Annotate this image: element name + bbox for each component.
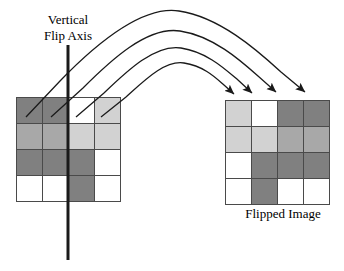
original-cell-r1c3 bbox=[69, 98, 94, 123]
original-cell-r2c4 bbox=[95, 124, 120, 149]
flipped-cell-r4c1 bbox=[226, 179, 251, 204]
flipped-cell-r2c4 bbox=[304, 127, 329, 152]
flipped-cell-r4c2 bbox=[252, 179, 277, 204]
original-cell-r1c4 bbox=[95, 98, 120, 123]
original-cell-r4c2 bbox=[43, 176, 68, 201]
flipped-cell-r1c3 bbox=[278, 101, 303, 126]
flipped-cell-r3c1 bbox=[226, 153, 251, 178]
flipped-cell-r1c4 bbox=[304, 101, 329, 126]
original-image-grid bbox=[16, 97, 121, 202]
axis-label-line-1: Vertical bbox=[16, 12, 120, 28]
vertical-flip-axis-label: Vertical Flip Axis bbox=[16, 12, 120, 44]
flipped-cell-r2c1 bbox=[226, 127, 251, 152]
flipped-cell-r1c2 bbox=[252, 101, 277, 126]
flipped-cell-r3c4 bbox=[304, 153, 329, 178]
flipped-cell-r2c2 bbox=[252, 127, 277, 152]
original-cell-r1c2 bbox=[43, 98, 68, 123]
original-cell-r4c3 bbox=[69, 176, 94, 201]
original-cell-r4c4 bbox=[95, 176, 120, 201]
flipped-cell-r3c3 bbox=[278, 153, 303, 178]
axis-label-line-2: Flip Axis bbox=[16, 28, 120, 44]
flipped-cell-r4c4 bbox=[304, 179, 329, 204]
original-cell-r2c2 bbox=[43, 124, 68, 149]
original-cell-r2c1 bbox=[17, 124, 42, 149]
flipped-image-grid bbox=[225, 100, 330, 205]
flipped-cell-r2c3 bbox=[278, 127, 303, 152]
flipped-cell-r3c2 bbox=[252, 153, 277, 178]
flipped-cell-r1c1 bbox=[226, 101, 251, 126]
original-cell-r1c1 bbox=[17, 98, 42, 123]
original-cell-r2c3 bbox=[69, 124, 94, 149]
figure-canvas: Vertical Flip Axis Flipped Image bbox=[0, 0, 344, 271]
original-cell-r3c3 bbox=[69, 150, 94, 175]
flipped-image-label: Flipped Image bbox=[228, 206, 338, 222]
original-cell-r3c4 bbox=[95, 150, 120, 175]
original-cell-r3c1 bbox=[17, 150, 42, 175]
flipped-cell-r4c3 bbox=[278, 179, 303, 204]
original-cell-r4c1 bbox=[17, 176, 42, 201]
original-cell-r3c2 bbox=[43, 150, 68, 175]
